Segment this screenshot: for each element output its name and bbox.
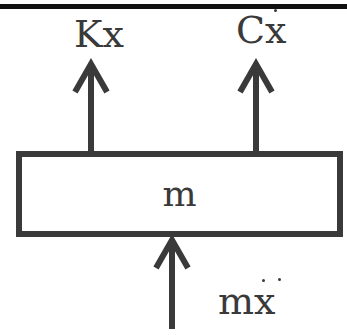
damper-force-arrow-icon bbox=[240, 64, 272, 154]
spring-constant-symbol: K bbox=[74, 12, 102, 56]
velocity-symbol: x bbox=[265, 11, 286, 49]
displacement-symbol: x bbox=[102, 12, 123, 56]
damper-force-label: Cx bbox=[236, 11, 287, 49]
mass-symbol: m bbox=[218, 279, 254, 323]
spring-force-label: Kx bbox=[74, 15, 124, 53]
damping-constant-symbol: C bbox=[236, 8, 265, 52]
mass-label: m bbox=[162, 176, 196, 212]
mass-block: m bbox=[16, 151, 343, 237]
acceleration-symbol: x bbox=[254, 282, 275, 320]
inertia-force-label: mx bbox=[218, 282, 275, 320]
spring-force-arrow-icon bbox=[75, 64, 107, 154]
free-body-diagram: Kx Cx m mx bbox=[0, 0, 347, 335]
inertia-force-arrow-icon bbox=[156, 240, 188, 329]
